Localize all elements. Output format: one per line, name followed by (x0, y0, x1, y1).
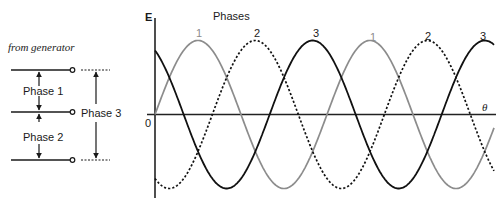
peak-label-phase2-second: 2 (425, 30, 431, 42)
peak-label-phase1: 1 (196, 27, 202, 39)
peak-label-phase2: 2 (254, 27, 260, 39)
peak-label-phase1-second: 1 (370, 31, 376, 43)
peak-label-phase3: 3 (313, 27, 319, 39)
graph-title: Phases (213, 10, 250, 22)
x-axis-label: θ (482, 101, 487, 113)
peak-label-phase3-second: 3 (480, 30, 486, 42)
y-axis-label: E (145, 11, 152, 23)
origin-label: 0 (145, 117, 151, 129)
